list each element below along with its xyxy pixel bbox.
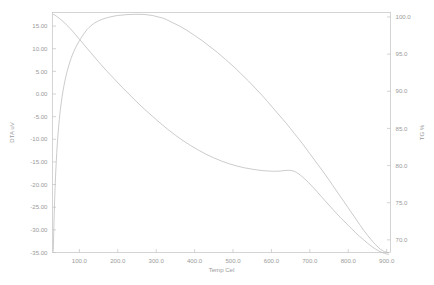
- y-left-tick-label: 10.00: [32, 45, 48, 52]
- series-line-tg: [53, 14, 388, 252]
- thermal-analysis-chart: 100.0200.0300.0400.0500.0600.0700.0800.0…: [0, 0, 434, 285]
- y-right-tick-label: 90.0: [396, 87, 408, 94]
- x-tick-label: 100.0: [72, 257, 88, 264]
- x-tick-label: 800.0: [341, 257, 357, 264]
- x-tick-label: 700.0: [302, 257, 318, 264]
- y-left-tick-label: -15.00: [30, 158, 48, 165]
- y-left-tick-label: 5.00: [36, 68, 48, 75]
- y-right-axis-title: TG %: [418, 124, 425, 140]
- y-left-tick-label: -20.00: [30, 181, 48, 188]
- y-left-tick-label: -10.00: [30, 135, 48, 142]
- y-right-tick-label: 85.0: [396, 125, 408, 132]
- y-left-tick-label: 15.00: [32, 22, 48, 29]
- x-tick-label: 400.0: [187, 257, 203, 264]
- y-left-tick-label: -30.00: [30, 226, 48, 233]
- y-right-tick-label: 70.0: [396, 236, 408, 243]
- x-tick-label: 900.0: [379, 257, 395, 264]
- y-left-axis-title: DTA uV: [8, 121, 15, 142]
- series-line-dta-uv: [53, 14, 388, 254]
- y-right-tick-label: 80.0: [396, 162, 408, 169]
- x-axis-title: Temp Cel: [209, 266, 235, 273]
- y-right-tick-label: 75.0: [396, 199, 408, 206]
- x-tick-label: 300.0: [149, 257, 165, 264]
- x-tick-label: 500.0: [225, 257, 241, 264]
- y-left-tick-label: -5.00: [34, 113, 49, 120]
- y-right-tick-label: 100.0: [396, 13, 412, 20]
- chart-container: 100.0200.0300.0400.0500.0600.0700.0800.0…: [0, 0, 434, 285]
- y-right-tick-label: 95.0: [396, 50, 408, 57]
- x-tick-label: 600.0: [264, 257, 280, 264]
- y-left-tick-label: -35.00: [30, 249, 48, 256]
- x-tick-label: 200.0: [110, 257, 126, 264]
- y-left-tick-label: 0.00: [36, 90, 48, 97]
- y-left-tick-label: -25.00: [30, 203, 48, 210]
